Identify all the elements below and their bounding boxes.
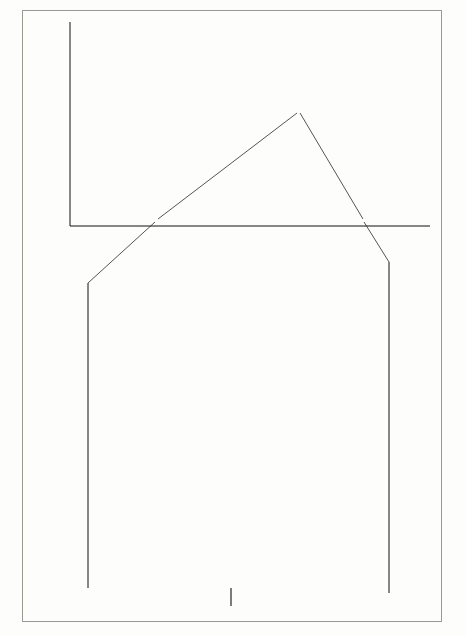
top-panel: [70, 22, 430, 226]
connector-right-lower: [364, 222, 389, 262]
figure-root: [0, 0, 466, 636]
bottom-panel: [88, 262, 389, 606]
figure-canvas: [0, 0, 466, 636]
connector-left-lower: [88, 222, 155, 283]
expansion-connectors: [88, 113, 389, 283]
connector-left: [158, 113, 297, 219]
connector-right: [300, 113, 363, 219]
